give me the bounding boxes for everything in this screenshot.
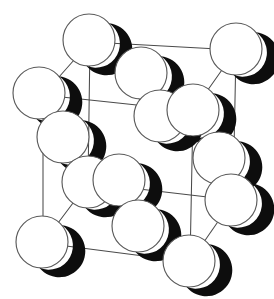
atom-bottom-front-left bbox=[16, 216, 85, 277]
atom-sphere-outline bbox=[93, 154, 145, 206]
atom-sphere-outline bbox=[163, 235, 215, 287]
atom-sphere-outline bbox=[63, 14, 115, 66]
atom-sphere-outline bbox=[210, 23, 262, 75]
unit-cell-canvas bbox=[0, 0, 274, 299]
atom-sphere-outline bbox=[37, 111, 89, 163]
atom-top-back-right bbox=[210, 23, 274, 84]
atom-sphere-outline bbox=[205, 174, 257, 226]
atom-sphere-outline bbox=[167, 84, 219, 136]
atom-bottom-front-right bbox=[163, 235, 232, 296]
atom-sphere-group bbox=[13, 14, 274, 296]
atom-sphere-outline bbox=[16, 216, 68, 268]
atom-sphere-outline bbox=[112, 200, 164, 252]
crystal-unit-cell-figure: Crystal structure unit cell Three-dimens… bbox=[0, 0, 274, 299]
